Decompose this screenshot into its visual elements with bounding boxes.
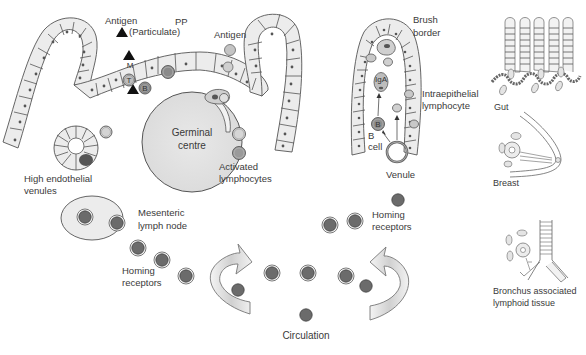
intraepithelial-label: Intraepithelial [422,88,479,99]
gut-illustration: Gut [492,18,580,113]
homing-receptors-left-label: Homing [122,265,155,276]
activated-lymphocytes-label-2: lymphocytes [219,173,272,184]
antigen-label: Antigen [214,29,246,40]
b-cell-label: B [368,130,374,141]
homing-receptors-right-label: Homing [372,209,405,220]
t-cell-label: T [127,76,132,85]
intraepithelial-label-2: lymphocyte [422,100,470,111]
germinal-centre-label: Germinal [172,127,213,138]
antigen-particulate-label-2: (Particulate) [129,26,180,37]
b-cell-villus-label: B [375,120,380,129]
m-cell-label: M [127,61,134,70]
homing-receptors-right-label-2: receptors [372,221,412,232]
gut-label: Gut [494,102,509,112]
circulation-lymphocytes: Circulation [232,265,372,341]
antigen-particulate-icon [116,27,128,37]
homing-receptors-left-label-2: receptors [122,277,162,288]
lymphocyte-in-dome [162,66,175,79]
iga-plasma-cell-label: IgA [375,75,388,84]
effector-villus: IgA B Venule B cell Brush border Intraep… [351,14,478,180]
balt-label: Bronchus associated [493,286,577,296]
pp-label: PP [175,16,188,27]
circulation-arrow-right [370,247,409,320]
brush-border-label: Brush [413,14,438,25]
activated-lymphocytes-label: Activated [219,161,258,172]
high-endothelial-venule: High endothelial venules [24,126,112,196]
b-cell-label-2: cell [368,141,382,152]
mesenteric-label: Mesenteric [138,207,185,218]
b-cell-pp-label: B [142,84,147,93]
circulation-arrow-left [210,244,252,314]
brush-border-label-2: border [413,27,440,38]
mucosal-immune-diagram: M T B Germinal centre Activated lymphocy… [0,0,586,355]
breast-label: Breast [493,178,520,188]
antigen-presenting-cluster [205,89,230,104]
balt-label-2: lymphoid tissue [493,298,555,308]
mesenteric-lymph-node: Mesenteric lymph node [61,196,187,240]
high-endothelial-label: High endothelial [24,173,92,184]
mesenteric-label-2: lymph node [138,220,187,231]
high-endothelial-label-2: venules [24,185,57,196]
germinal-centre-label-2: centre [178,140,206,151]
circulation-label: Circulation [282,330,329,341]
homing-lymphocytes-right: Homing receptors [322,194,412,233]
antigen-entry-icon [123,50,135,60]
antigen-particulate-label: Antigen [105,15,137,26]
homing-lymphocytes-left: Homing receptors [122,240,194,288]
balt-illustration: Bronchus associated lymphoid tissue [493,220,577,308]
breast-illustration: Breast [493,112,561,188]
venule-label: Venule [386,169,415,180]
